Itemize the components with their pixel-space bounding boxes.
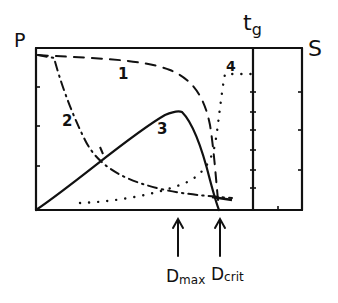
curve-3-tick xyxy=(100,147,103,154)
axis-label-p: P xyxy=(14,29,25,51)
curve-4-dotted xyxy=(80,74,253,203)
dcrit-arrow xyxy=(215,219,225,256)
dmax-arrow xyxy=(173,219,183,256)
dcrit-label: Dcrit xyxy=(211,264,244,284)
curve-3-label: 3 xyxy=(157,120,167,138)
plot-frame xyxy=(36,48,302,210)
tg-label: tg xyxy=(243,10,262,39)
curve-4-label: 4 xyxy=(226,58,236,74)
dmax-label: Dmax xyxy=(166,266,205,287)
curve-1-label: 1 xyxy=(118,65,128,83)
diagram-canvas: 1 2 3 4 P S tg Dmax Dcrit xyxy=(0,0,338,303)
axis-label-s: S xyxy=(308,36,322,61)
curve-2-label: 2 xyxy=(62,112,72,130)
